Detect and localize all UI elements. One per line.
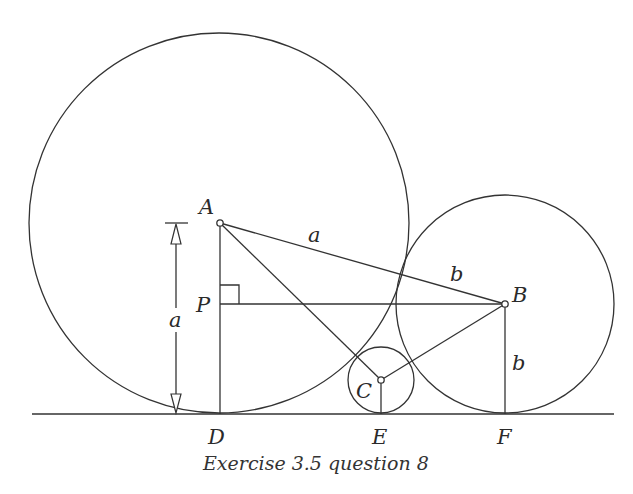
point-C-marker [378,377,384,383]
arrowhead-down-icon [171,394,181,413]
label-D: D [207,425,225,449]
arrowhead-up-icon [171,224,181,244]
label-F: F [496,425,513,449]
figure-caption: Exercise 3.5 question 8 [202,452,429,474]
label-segment-a: a [308,223,321,247]
right-angle-marker [220,285,239,304]
label-segment-b: b [450,262,463,286]
label-C: C [356,379,372,403]
label-dimension-a: a [169,308,182,332]
label-E: E [371,425,387,449]
label-P: P [195,293,211,317]
geometry-figure: A B C D E F P a b b a Exercise 3.5 quest… [0,0,633,494]
label-A: A [197,195,214,219]
label-radius-b: b [512,351,525,375]
segment-BC [381,304,505,380]
point-B-marker [502,301,508,307]
point-A-marker [217,220,223,226]
label-B: B [511,283,527,307]
